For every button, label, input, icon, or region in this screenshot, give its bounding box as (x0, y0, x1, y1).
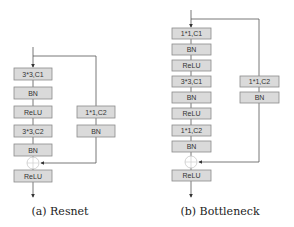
layer-box: ReLU (172, 108, 211, 119)
svg-text:1*1,C1: 1*1,C1 (181, 30, 203, 37)
shortcut-box: BN (240, 92, 279, 103)
sum-node-icon (185, 156, 197, 168)
layer-box: BN (14, 87, 52, 99)
svg-text:3*3,C2: 3*3,C2 (22, 128, 44, 135)
layer-box: ReLU (172, 170, 211, 181)
caption-resnet: (a) Resnet (31, 205, 89, 218)
layer-box: 3*3,C1 (172, 76, 211, 87)
svg-text:3*3,C1: 3*3,C1 (22, 71, 44, 78)
svg-text:ReLU: ReLU (183, 62, 201, 69)
svg-text:1*1,C2: 1*1,C2 (181, 127, 203, 134)
layer-box: 1*1,C2 (172, 125, 211, 136)
shortcut-box: 1*1,C2 (240, 76, 279, 87)
svg-text:ReLU: ReLU (183, 110, 201, 117)
layer-box: 3*3,C1 (14, 68, 52, 80)
resnet-block-diagrams: 3*3,C1 BN ReLU 3*3,C2 BN ReLU (0, 0, 294, 227)
resnet-diagram: 3*3,C1 BN ReLU 3*3,C2 BN ReLU (14, 47, 115, 218)
layer-box: BN (172, 92, 211, 103)
svg-text:BN: BN (187, 94, 197, 101)
svg-text:1*1,C2: 1*1,C2 (249, 78, 271, 85)
layer-box: BN (172, 141, 211, 152)
svg-text:3*3,C1: 3*3,C1 (181, 78, 203, 85)
layer-box: ReLU (172, 60, 211, 71)
svg-text:ReLU: ReLU (24, 173, 42, 180)
layer-box: ReLU (14, 106, 52, 118)
shortcut-box: 1*1,C2 (77, 106, 115, 118)
shortcut-box: BN (77, 125, 115, 137)
svg-text:BN: BN (187, 46, 197, 53)
svg-text:BN: BN (28, 147, 38, 154)
svg-text:1*1,C2: 1*1,C2 (85, 109, 107, 116)
sum-node-icon (27, 157, 39, 169)
svg-text:BN: BN (91, 128, 101, 135)
layer-box: BN (14, 144, 52, 156)
svg-text:BN: BN (187, 143, 197, 150)
svg-text:BN: BN (255, 94, 265, 101)
layer-box: BN (172, 44, 211, 55)
caption-bottleneck: (b) Bottleneck (180, 205, 259, 218)
bottleneck-diagram: 1*1,C1 BN ReLU 3*3,C1 BN ReLU 1*1,C2 BN (172, 10, 279, 218)
layer-box: 1*1,C1 (172, 28, 211, 39)
svg-text:BN: BN (28, 90, 38, 97)
svg-text:ReLU: ReLU (183, 172, 201, 179)
layer-box: ReLU (14, 170, 52, 182)
svg-text:ReLU: ReLU (24, 109, 42, 116)
layer-box: 3*3,C2 (14, 125, 52, 137)
